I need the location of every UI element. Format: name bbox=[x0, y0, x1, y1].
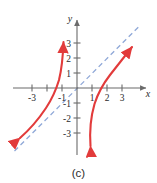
x-tick-label-neg3: -3 bbox=[28, 93, 36, 103]
y-tick-label-2: 2 bbox=[66, 54, 71, 64]
x-tick-label-3: 3 bbox=[120, 93, 125, 103]
x-axis bbox=[13, 85, 146, 92]
x-tick-label-1: 1 bbox=[90, 93, 95, 103]
x-axis-label: x bbox=[145, 88, 151, 99]
y-tick-label-neg2: -2 bbox=[63, 114, 71, 124]
graph-svg: -3 -1 1 2 3 1 2 3 -1 -2 -3 x y bbox=[0, 0, 157, 183]
y-axis-label: y bbox=[67, 13, 73, 24]
figure-caption: (c) bbox=[0, 167, 157, 179]
curve-branch-right bbox=[90, 47, 132, 146]
y-tick-label-neg1: -1 bbox=[63, 99, 71, 109]
y-tick-label-3: 3 bbox=[66, 39, 71, 49]
figure-panel: -3 -1 1 2 3 1 2 3 -1 -2 -3 x y (c) bbox=[0, 0, 157, 183]
x-tick-label-2: 2 bbox=[105, 93, 110, 103]
y-tick-label-1: 1 bbox=[66, 69, 71, 79]
y-tick-label-neg3: -3 bbox=[63, 129, 71, 139]
